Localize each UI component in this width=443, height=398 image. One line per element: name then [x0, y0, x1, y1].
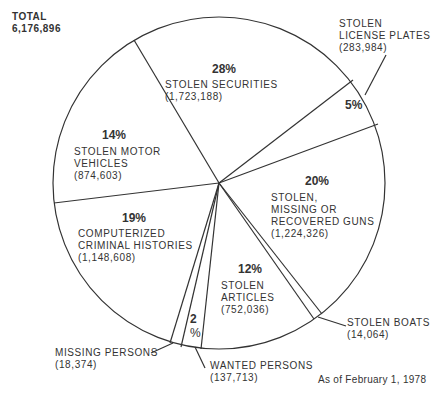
- histories-label: COMPUTERIZED CRIMINAL HISTORIES (1,148,6…: [78, 228, 193, 264]
- missing-count: (18,374): [55, 359, 158, 371]
- plates-name-2: LICENSE PLATES: [339, 30, 431, 42]
- histories-count: (1,148,608): [78, 252, 193, 264]
- date-note: As of February 1, 1978: [318, 374, 426, 385]
- wanted-pct-a: 2: [190, 312, 201, 326]
- histories-name-1: COMPUTERIZED: [78, 228, 193, 240]
- boats-label: STOLEN BOATS (14,064): [347, 317, 430, 341]
- vehicles-count: (874,603): [74, 170, 161, 182]
- leader-plates: [365, 55, 386, 95]
- articles-count: (752,036): [221, 304, 275, 316]
- guns-count: (1,224,326): [271, 228, 374, 240]
- guns-name-1: STOLEN,: [271, 192, 374, 204]
- securities-count: (1,723,188): [165, 91, 278, 103]
- guns-name-2: MISSING OR: [271, 204, 374, 216]
- boats-count: (14,064): [347, 329, 430, 341]
- articles-label: STOLEN ARTICLES (752,036): [221, 280, 275, 316]
- vehicles-name-1: STOLEN MOTOR: [74, 146, 161, 158]
- plates-label: STOLEN LICENSE PLATES (283,984): [339, 18, 431, 54]
- plates-pct: 5%: [345, 98, 362, 112]
- guns-pct: 20%: [305, 174, 329, 188]
- missing-label: MISSING PERSONS (18,374): [55, 347, 158, 371]
- histories-name-2: CRIMINAL HISTORIES: [78, 240, 193, 252]
- securities-name: STOLEN SECURITIES: [165, 79, 278, 91]
- vehicles-name-2: VEHICLES: [74, 158, 161, 170]
- plates-name-1: STOLEN: [339, 18, 431, 30]
- boundary-articles-wanted: [201, 183, 219, 349]
- vehicles-pct: 14%: [102, 128, 126, 142]
- articles-name-1: STOLEN: [221, 280, 275, 292]
- total-value: 6,176,896: [12, 23, 61, 35]
- vehicles-label: STOLEN MOTOR VEHICLES (874,603): [74, 146, 161, 182]
- missing-name: MISSING PERSONS: [55, 347, 158, 359]
- total-label: TOTAL 6,176,896: [12, 11, 61, 35]
- articles-pct: 12%: [238, 262, 262, 276]
- wanted-pct-b: %: [190, 326, 201, 340]
- boundary-plates-guns: [219, 124, 378, 183]
- leader-boats: [318, 317, 346, 326]
- articles-name-2: ARTICLES: [221, 292, 275, 304]
- leader-wanted: [195, 347, 205, 368]
- securities-pct: 28%: [212, 62, 236, 76]
- wanted-pct: 2 %: [190, 312, 201, 340]
- guns-name-3: RECOVERED GUNS: [271, 216, 374, 228]
- histories-pct: 19%: [122, 211, 146, 225]
- wanted-label: WANTED PERSONS (137,713): [210, 360, 313, 384]
- securities-label: STOLEN SECURITIES (1,723,188): [165, 79, 278, 103]
- boats-name: STOLEN BOATS: [347, 317, 430, 329]
- total-title: TOTAL: [12, 11, 61, 23]
- guns-label: STOLEN, MISSING OR RECOVERED GUNS (1,224…: [271, 192, 374, 240]
- plates-count: (283,984): [339, 42, 431, 54]
- wanted-name: WANTED PERSONS: [210, 360, 313, 372]
- boundary-histories-vehicles: [54, 183, 219, 203]
- wanted-count: (137,713): [210, 372, 313, 384]
